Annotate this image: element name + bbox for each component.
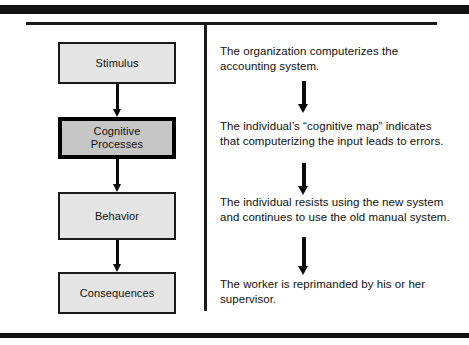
- arrow-head: [298, 104, 308, 113]
- example-step-2: The individual’s “cognitive map” indicat…: [220, 119, 452, 148]
- example-step-4: The worker is reprimanded by his or her …: [220, 277, 452, 306]
- arrow-shaft: [116, 159, 119, 184]
- down-arrow-icon: [298, 163, 309, 195]
- arrow-shaft: [302, 237, 306, 266]
- arrow-head: [298, 186, 308, 195]
- arrow-shaft: [116, 84, 119, 109]
- flow-box-consequences: Consequences: [58, 272, 176, 314]
- example-step-3: The individual resists using the new sys…: [220, 195, 452, 224]
- example-column: The organization computerizes the accoun…: [207, 0, 469, 345]
- arrow-head: [298, 266, 308, 275]
- flow-column: Stimulus Cognitive Processes Behavior Co…: [0, 0, 204, 345]
- flow-box-behavior: Behavior: [58, 192, 176, 240]
- down-arrow-icon: [113, 84, 122, 117]
- down-arrow-icon: [298, 237, 309, 275]
- flow-box-label: Stimulus: [96, 57, 139, 70]
- example-step-1: The organization computerizes the accoun…: [220, 44, 452, 73]
- arrow-shaft: [302, 81, 306, 104]
- arrow-shaft: [302, 163, 306, 186]
- arrow-head: [113, 109, 121, 117]
- flow-box-label: Consequences: [80, 287, 155, 300]
- down-arrow-icon: [113, 159, 122, 192]
- arrow-shaft: [116, 240, 119, 264]
- arrow-head: [113, 264, 121, 272]
- flow-box-label: Behavior: [95, 210, 139, 223]
- flow-box-label: Cognitive Processes: [91, 125, 143, 151]
- arrow-head: [113, 184, 121, 192]
- flow-box-stimulus: Stimulus: [58, 42, 176, 84]
- flow-box-cognitive-processes: Cognitive Processes: [58, 117, 176, 159]
- down-arrow-icon: [113, 240, 122, 272]
- down-arrow-icon: [298, 81, 309, 113]
